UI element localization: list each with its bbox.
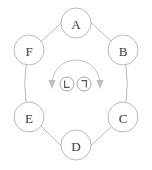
center-rotation-arc: [48, 60, 103, 89]
node-e-label: E: [25, 111, 33, 126]
hexagon-cycle-diagram: A B C D E F: [0, 0, 152, 170]
edge-e-f: [25, 65, 26, 102]
node-b-label: B: [119, 44, 128, 59]
edge-d-e: [42, 127, 63, 147]
edge-c-d: [90, 127, 112, 147]
edge-a-b: [90, 22, 112, 42]
rotation-arc-path: [52, 60, 100, 84]
node-a[interactable]: A: [61, 8, 91, 38]
node-c-label: C: [119, 111, 128, 126]
node-f[interactable]: F: [14, 35, 44, 65]
glyph-right-circle: [77, 77, 91, 91]
node-e[interactable]: E: [14, 102, 44, 132]
node-b[interactable]: B: [108, 35, 138, 65]
glyph-left-circle: [60, 77, 74, 91]
arrow-head-right-icon: [96, 80, 103, 89]
center-glyph-left: [60, 77, 74, 91]
edge-b-c: [126, 65, 127, 102]
node-c[interactable]: C: [108, 102, 138, 132]
node-a-label: A: [71, 17, 81, 32]
center-glyph-right: [77, 77, 91, 91]
arrow-head-left-icon: [48, 80, 55, 89]
node-d[interactable]: D: [61, 130, 91, 160]
node-d-label: D: [71, 139, 80, 154]
edge-f-a: [42, 22, 63, 42]
node-f-label: F: [25, 44, 32, 59]
diagram-canvas: A B C D E F: [0, 0, 152, 170]
